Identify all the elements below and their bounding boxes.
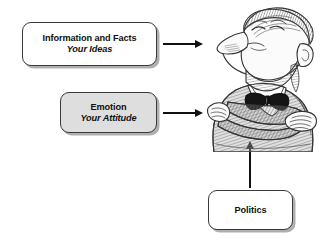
diagram-canvas: Information and Facts Your Ideas Emotion… <box>0 0 326 247</box>
arrow-emotion-to-figure-icon <box>163 112 196 114</box>
node-emotion-line1: Emotion <box>90 102 126 113</box>
node-emotion-line2: Your Attitude <box>80 113 136 124</box>
node-information-and-facts[interactable]: Information and Facts Your Ideas <box>22 22 157 66</box>
node-information-and-facts-line1: Information and Facts <box>43 33 137 44</box>
node-emotion[interactable]: Emotion Your Attitude <box>60 92 157 133</box>
node-information-and-facts-line2: Your Ideas <box>67 44 113 55</box>
skeptical-listener-cartoon-icon <box>196 4 324 152</box>
node-politics[interactable]: Politics <box>208 190 293 230</box>
arrow-politics-to-figure-icon <box>249 148 251 188</box>
node-politics-line1: Politics <box>235 205 267 216</box>
arrow-information-to-figure-icon <box>163 43 196 45</box>
